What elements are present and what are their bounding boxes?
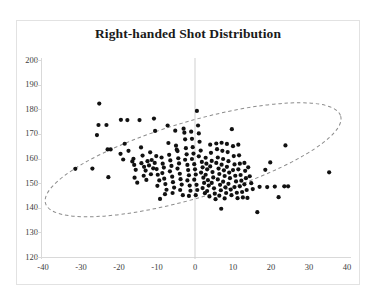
data-point — [197, 140, 201, 144]
data-point — [200, 160, 204, 164]
data-point — [218, 183, 222, 187]
data-point — [169, 164, 173, 168]
data-point — [106, 175, 110, 179]
data-point — [189, 130, 193, 134]
data-point — [216, 155, 220, 159]
data-point — [153, 129, 157, 133]
data-point — [225, 142, 229, 146]
data-point — [162, 177, 166, 181]
data-point — [210, 170, 214, 174]
y-tick-mark — [37, 134, 41, 135]
data-point — [225, 165, 229, 169]
data-point — [193, 167, 197, 171]
data-point — [210, 181, 214, 185]
y-tick-mark — [37, 208, 41, 209]
data-point — [248, 174, 252, 178]
data-point — [238, 162, 242, 166]
x-axis-line — [41, 257, 351, 258]
data-point — [163, 182, 167, 186]
data-point — [126, 149, 130, 153]
data-point — [154, 154, 158, 158]
x-tick-label: -20 — [104, 263, 134, 272]
data-point — [173, 129, 177, 133]
data-point — [168, 169, 172, 173]
data-point — [139, 145, 143, 149]
data-point — [194, 183, 198, 187]
data-point — [181, 193, 185, 197]
data-point — [201, 186, 205, 190]
data-point — [230, 127, 234, 131]
data-point — [258, 185, 262, 189]
data-point — [246, 165, 250, 169]
data-point — [125, 118, 129, 122]
data-point — [137, 118, 141, 122]
data-point — [220, 149, 224, 153]
data-point — [229, 187, 233, 191]
data-point — [152, 117, 156, 121]
data-point — [217, 172, 221, 176]
data-point — [104, 123, 108, 127]
data-point — [140, 153, 144, 157]
data-point — [204, 162, 208, 166]
data-point — [182, 127, 186, 131]
data-point — [268, 160, 272, 164]
data-point — [170, 191, 174, 195]
data-point — [194, 172, 198, 176]
data-point — [211, 175, 215, 179]
data-point — [199, 149, 203, 153]
y-tick-label: 180 — [12, 105, 38, 114]
data-point — [185, 152, 189, 156]
data-point — [73, 167, 77, 171]
chart-title: Right-handed Shot Distribution — [16, 26, 360, 42]
data-point — [196, 123, 200, 127]
data-point — [206, 178, 210, 182]
data-point — [184, 146, 188, 150]
data-point — [197, 131, 201, 135]
y-tick-mark — [37, 232, 41, 233]
data-point — [183, 137, 187, 141]
data-point — [236, 167, 240, 171]
data-point — [166, 141, 170, 145]
data-point — [135, 181, 139, 185]
x-tick-label: 20 — [256, 263, 286, 272]
x-tick-label: 10 — [218, 263, 248, 272]
data-point — [282, 184, 286, 188]
data-point — [162, 166, 166, 170]
data-point — [207, 194, 211, 198]
data-point — [235, 191, 239, 195]
data-point — [187, 194, 191, 198]
data-point — [176, 156, 180, 160]
data-point — [209, 151, 213, 155]
data-point — [199, 170, 203, 174]
data-point — [229, 193, 233, 197]
y-tick-mark — [37, 85, 41, 86]
data-point — [221, 180, 225, 184]
data-point — [228, 176, 232, 180]
data-point — [147, 163, 151, 167]
data-point — [185, 163, 189, 167]
y-tick-label: 150 — [12, 179, 38, 188]
data-point — [265, 185, 269, 189]
data-point — [153, 161, 157, 165]
x-tick-label: 30 — [294, 263, 324, 272]
data-point — [239, 179, 243, 183]
data-point — [134, 168, 138, 172]
data-point — [245, 188, 249, 192]
data-point — [236, 143, 240, 147]
y-axis-tick-labels: 120130140150160170180190200 — [8, 0, 38, 299]
data-point — [202, 181, 206, 185]
data-point — [144, 168, 148, 172]
data-point — [121, 157, 125, 161]
data-point — [249, 181, 253, 185]
data-point — [221, 157, 225, 161]
data-point — [220, 141, 224, 145]
data-points-layer — [73, 101, 331, 214]
data-point — [190, 137, 194, 141]
data-point — [208, 164, 212, 168]
data-point — [222, 168, 226, 172]
data-point — [237, 153, 241, 157]
data-point — [219, 188, 223, 192]
data-point — [167, 153, 171, 157]
data-point — [161, 162, 165, 166]
data-point — [142, 165, 146, 169]
